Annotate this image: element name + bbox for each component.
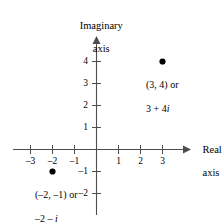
x-tick-label-1: 1 <box>109 156 128 166</box>
point-label--2--1-imaginary-unit: i <box>55 213 58 222</box>
x-tick-label--3: –3 <box>21 156 40 166</box>
point-label-3-4: (3, 4) or 3 + 4i <box>136 67 179 127</box>
x-axis-title-line2: axis <box>203 167 220 178</box>
y-tick-label--1: –1 <box>70 166 88 176</box>
point-label-3-4-imaginary-unit: i <box>167 103 170 114</box>
point-label--2--1-line2-prefix: –2 – <box>35 213 55 222</box>
x-axis-arrowhead <box>183 146 191 154</box>
x-tick-label-2: 2 <box>131 156 150 166</box>
y-axis-title-line1: Imaginary <box>80 20 123 31</box>
x-axis-title: Real axis <box>192 132 222 190</box>
point-label--2--1: (–2, –1) or –2 – i <box>25 177 78 222</box>
y-tick-label-4: 4 <box>70 56 88 66</box>
y-tick-label-3: 3 <box>70 78 88 88</box>
complex-plane-figure: Imaginary axis Real axis –3 –2 –1 1 2 3 … <box>0 0 222 222</box>
x-tick-label--2: –2 <box>43 156 62 166</box>
x-tick-label--1: –1 <box>65 156 84 166</box>
x-axis-title-line1: Real <box>203 144 222 155</box>
point-label-3-4-line2-prefix: 3 + 4 <box>146 103 167 114</box>
y-tick-label-2: 2 <box>70 100 88 110</box>
x-tick-label-3: 3 <box>153 156 172 166</box>
data-point--2--1 <box>49 168 55 174</box>
y-axis-title-line2: axis <box>93 43 110 54</box>
point-label-3-4-line1: (3, 4) or <box>146 79 179 90</box>
point-label--2--1-line1: (–2, –1) or <box>35 189 78 200</box>
y-tick-label-1: 1 <box>70 122 88 132</box>
data-point-3-4 <box>159 58 165 64</box>
